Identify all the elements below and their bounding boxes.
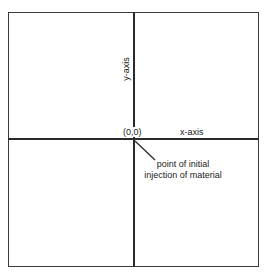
coordinate-diagram: (0,0) x-axis y-axis point of initial inj… [0, 0, 268, 273]
injection-point-annotation: point of initial injection of material [142, 159, 224, 181]
x-axis-line [8, 138, 259, 140]
annotation-line-1: point of initial [142, 159, 224, 170]
origin-label: (0,0) [122, 127, 143, 137]
x-axis-label: x-axis [180, 127, 204, 137]
annotation-line-2: injection of material [142, 170, 224, 181]
y-axis-label: y-axis [121, 57, 131, 81]
